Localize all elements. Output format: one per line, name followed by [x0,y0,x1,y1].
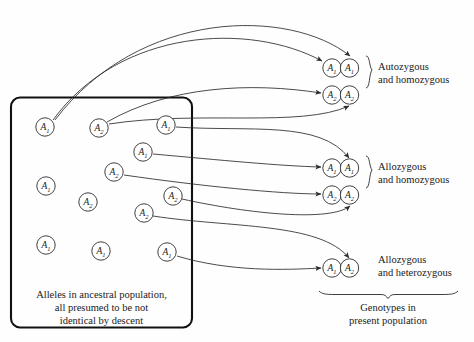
arc-a12-to-g5-left [177,256,321,269]
genotype-group-label: Allozygousand homozygous [378,161,449,185]
figure-canvas: A1A2A1A1A2A1A2A2A2A1A1A1 A1A1A2A2A1A1A2A… [0,0,474,342]
arc-a9-to-g5-right [153,216,349,258]
ancestral-allele[interactable]: A1 [158,243,176,261]
genotype-pair[interactable]: A1A2 [323,259,359,277]
genotype-group-label-line: and homozygous [378,174,449,185]
genotype-pair[interactable]: A1A1 [323,159,359,177]
genotype-group-label-line: and homozygous [378,74,449,85]
genotype-group-label-line: Allozygous [378,161,426,172]
arc-a1-to-g1-right [55,26,350,120]
arc-a1-to-g1-left [53,38,322,120]
present-population-label-line: Genotypes in [360,302,416,313]
genotype-group-label: Allozygousand heterozygous [378,254,452,278]
arc-a3-to-g3-right [176,127,349,158]
genotype-group-label-line: Allozygous [378,254,426,265]
genotype-group-label-line: and heterozygous [378,267,452,278]
group-braces [366,56,372,188]
brace-present-population [319,291,458,299]
ancestral-allele[interactable]: A2 [79,193,97,211]
ancestral-allele[interactable]: A1 [134,143,152,161]
present-population-label-line: present population [349,315,428,326]
ancestral-allele[interactable]: A1 [157,116,175,134]
brace-allozygous-homozygous [366,156,372,188]
genotype-pair[interactable]: A2A2 [323,86,359,104]
genotype-group-label: Autozygousand homozygous [378,61,449,85]
genotype-group-label-line: Autozygous [378,61,429,72]
ancestral-allele[interactable]: A1 [92,242,110,260]
ancestral-allele[interactable]: A2 [105,163,123,181]
ancestral-allele[interactable]: A2 [164,187,182,205]
ancestral-box-caption-line: all presumed to be not [55,302,148,313]
arc-a5-to-g4-left [124,175,321,194]
ancestral-allele[interactable]: A1 [37,236,55,254]
ancestral-allele[interactable]: A1 [36,118,54,136]
genotype-pair[interactable]: A2A2 [323,186,359,204]
brace-autozygous [366,56,372,88]
diagram-svg: A1A2A1A1A2A1A2A2A2A1A1A1 A1A1A2A2A1A1A2A… [0,0,474,342]
arc-a4-to-g3-left [153,154,321,167]
ancestral-allele[interactable]: A2 [90,119,108,137]
ancestral-allele[interactable]: A1 [37,177,55,195]
ancestral-allele[interactable]: A2 [135,204,153,222]
connector-arcs [53,26,350,270]
ancestral-box-caption-line: identical by descent [60,315,143,326]
ancestral-allele-group: A1A2A1A1A2A1A2A2A2A1A1A1 [36,116,182,261]
ancestral-box-caption-line: Alleles in ancestral population, [36,289,167,300]
genotype-group: A1A1A2A2A1A1A2A2A1A2 [323,59,359,277]
arc-a2-to-g2-right [109,106,349,124]
genotype-pair[interactable]: A1A1 [323,59,359,77]
